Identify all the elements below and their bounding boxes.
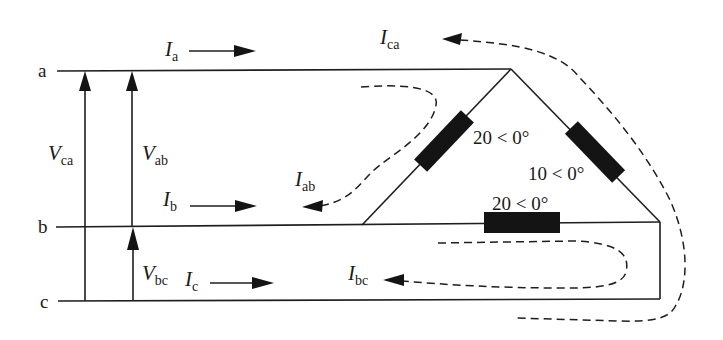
voltage-label-vab: Vab xyxy=(142,141,168,168)
impedance-label-ab: 20 < 0° xyxy=(473,127,529,148)
voltage-label-vca: Vca xyxy=(48,141,74,168)
current-arrow-ic xyxy=(210,277,274,289)
resistor-bc xyxy=(484,212,560,233)
voltage-arrow-vca xyxy=(79,71,91,301)
voltage-label-vbc: Vbc xyxy=(142,261,168,288)
current-label-ib: Ib xyxy=(162,187,177,214)
node-label-b: b xyxy=(38,216,48,237)
voltage-arrow-vab xyxy=(126,71,138,226)
impedance-label-bc: 20 < 0° xyxy=(492,193,548,214)
current-label-ic: Ic xyxy=(184,267,198,294)
current-label-ica: Ica xyxy=(379,25,400,52)
resistor-ab xyxy=(414,110,474,172)
line-a-wire xyxy=(57,69,511,71)
arrowhead-right-icon xyxy=(235,200,257,212)
current-label-ia: Ia xyxy=(164,37,179,64)
line-b-wire xyxy=(56,222,660,227)
line-c-wire xyxy=(58,299,660,301)
arrowhead-left-icon xyxy=(302,200,323,212)
current-label-ibc: Ibc xyxy=(347,261,368,288)
node-label-a: a xyxy=(38,60,47,81)
arrowhead-right-icon xyxy=(252,277,274,289)
phase-current-path-iab xyxy=(302,86,436,212)
current-label-iab: Iab xyxy=(294,167,315,194)
node-label-c: c xyxy=(40,291,48,312)
voltage-arrow-vbc xyxy=(127,227,139,301)
current-arrow-ia xyxy=(189,45,256,57)
arrowhead-up-icon xyxy=(127,227,139,250)
arrowhead-left-icon xyxy=(442,33,462,45)
arrowhead-left-icon xyxy=(383,274,404,286)
impedance-label-ca: 10 < 0° xyxy=(528,163,584,184)
arrowhead-up-icon xyxy=(126,71,138,91)
arrowhead-up-icon xyxy=(79,71,91,91)
current-arrow-ib xyxy=(190,200,257,212)
phase-current-path-ibc xyxy=(383,241,627,288)
delta-load-circuit-diagram: a b c Vca Vab Vbc Ia Ib Ic 20 xyxy=(0,0,723,340)
arrowhead-right-icon xyxy=(234,45,256,57)
